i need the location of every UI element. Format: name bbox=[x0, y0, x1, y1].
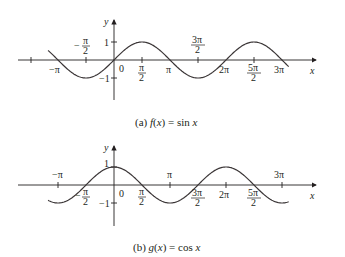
tick-three-half-pi: 3π 2 bbox=[191, 187, 205, 208]
svg-text:2: 2 bbox=[139, 196, 144, 207]
y-axis-label: y bbox=[103, 16, 109, 27]
tick-neg-pi: −π bbox=[52, 169, 63, 180]
svg-text:2: 2 bbox=[83, 196, 88, 207]
chart-a-sin: y x 1 −1 0 −π − π 2 π 2 π 3π 2 2π 5π 2 bbox=[18, 16, 316, 100]
svg-text:−: − bbox=[75, 190, 81, 201]
caption-a: (a) f(x) = sin x bbox=[135, 116, 197, 128]
svg-text:2: 2 bbox=[139, 72, 144, 83]
svg-text:2: 2 bbox=[83, 45, 88, 56]
caption-b: (b) g(x) = cos x bbox=[133, 241, 200, 253]
tick-neg-pi: −π bbox=[49, 64, 60, 75]
tick-five-half-pi: 5π 2 bbox=[247, 62, 261, 83]
origin-label: 0 bbox=[119, 188, 124, 199]
figure-canvas: y x 1 −1 0 −π − π 2 π 2 π 3π 2 2π 5π 2 bbox=[0, 0, 345, 257]
tick-neg-half-pi: − π 2 bbox=[74, 35, 90, 56]
tick-half-pi: π 2 bbox=[138, 186, 146, 207]
tick-three-pi: 3π bbox=[274, 64, 284, 75]
tick-two-pi: 2π bbox=[219, 64, 229, 75]
x-axis-label: x bbox=[309, 190, 315, 201]
tick-pi: π bbox=[166, 64, 171, 75]
x-axis-label: x bbox=[309, 65, 315, 76]
chart-b-cos: y x 1 −1 0 −π − π 2 π 2 π 3π 2 2π 5π 2 3… bbox=[18, 142, 316, 226]
tick-pi: π bbox=[167, 169, 172, 180]
y-axis-label: y bbox=[103, 142, 109, 153]
svg-text:2: 2 bbox=[251, 72, 256, 83]
svg-text:−: − bbox=[74, 40, 80, 51]
y-tick-1: 1 bbox=[104, 158, 109, 169]
tick-two-pi: 2π bbox=[219, 189, 229, 200]
y-tick-1: 1 bbox=[104, 37, 109, 48]
tick-neg-half-pi: − π 2 bbox=[75, 186, 90, 207]
origin-label: 0 bbox=[119, 63, 124, 74]
tick-three-half-pi: 3π 2 bbox=[191, 34, 205, 55]
svg-text:2: 2 bbox=[195, 44, 200, 55]
svg-text:2: 2 bbox=[195, 197, 200, 208]
y-tick-neg1: −1 bbox=[99, 198, 110, 209]
tick-half-pi: π 2 bbox=[138, 62, 146, 83]
tick-three-pi: 3π bbox=[274, 169, 284, 180]
y-tick-neg1: −1 bbox=[99, 73, 110, 84]
svg-text:2: 2 bbox=[251, 197, 256, 208]
